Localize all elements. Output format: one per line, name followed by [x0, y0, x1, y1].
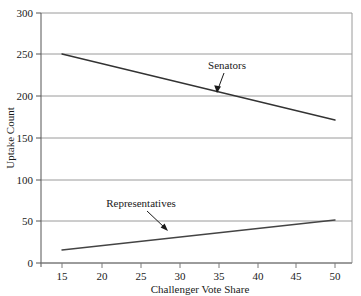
line-chart: 300 250 200 150 100 50 0 15 20 25 30 35 …: [0, 0, 361, 296]
y-axis-title: Uptake Count: [4, 107, 16, 168]
y-tick-label-0: 0: [28, 257, 34, 269]
annotation-label-senators: Senators: [208, 59, 246, 71]
x-tick-label-25: 25: [136, 270, 148, 282]
x-tick-label-45: 45: [291, 270, 303, 282]
x-tick-marks: [62, 263, 335, 268]
x-tick-label-40: 40: [253, 270, 265, 282]
x-tick-label-15: 15: [57, 270, 69, 282]
y-tick-marks: [36, 13, 41, 263]
y-tick-label-150: 150: [17, 132, 34, 144]
y-tick-label-250: 250: [17, 48, 34, 60]
x-tick-label-30: 30: [175, 270, 187, 282]
annotation-label-representatives: Representatives: [106, 197, 176, 209]
y-tick-labels: 300 250 200 150 100 50 0: [17, 7, 34, 269]
chart-figure: 300 250 200 150 100 50 0 15 20 25 30 35 …: [0, 0, 361, 296]
y-tick-label-200: 200: [17, 90, 34, 102]
x-axis-title: Challenger Vote Share: [151, 283, 250, 295]
x-tick-label-20: 20: [97, 270, 109, 282]
x-tick-label-50: 50: [330, 270, 342, 282]
y-tick-label-300: 300: [17, 7, 34, 19]
x-tick-labels: 15 20 25 30 35 40 45 50: [57, 270, 342, 282]
x-tick-label-35: 35: [214, 270, 226, 282]
y-tick-label-50: 50: [22, 215, 34, 227]
y-tick-label-100: 100: [17, 174, 34, 186]
